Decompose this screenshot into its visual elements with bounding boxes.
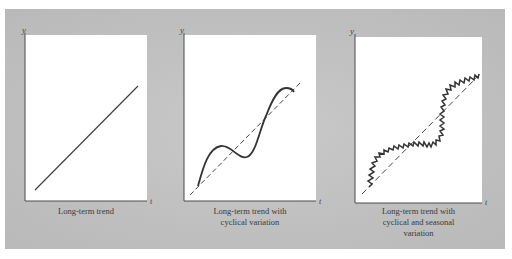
panel-trend-with-cyclical: y t	[179, 25, 322, 206]
x-axis-label: t	[150, 197, 153, 206]
caption-trend-with-cyclical-seasonal: Long-term trend with cyclical and season…	[355, 206, 482, 239]
caption-line: cyclical and seasonal	[355, 217, 482, 228]
caption-long-term-trend: Long-term trend	[25, 206, 147, 217]
plot-area	[25, 35, 147, 201]
caption-line: Long-term trend with	[355, 206, 482, 217]
panel-trend-with-cyclical-seasonal: y t	[349, 26, 488, 207]
caption-line: cyclical variation	[184, 217, 316, 228]
caption-line: Long-term trend with	[184, 206, 316, 217]
x-axis-label: t	[319, 197, 322, 206]
plot-area	[184, 35, 316, 201]
caption-line: Long-term trend	[25, 206, 147, 217]
caption-line: variation	[355, 228, 482, 239]
x-axis-label: t	[485, 198, 488, 207]
y-axis-label: y	[179, 25, 184, 35]
caption-trend-with-cyclical: Long-term trend with cyclical variation	[184, 206, 316, 228]
panel-long-term-trend: y t	[21, 25, 153, 206]
y-axis-label: y	[349, 26, 354, 36]
y-axis-label: y	[21, 25, 26, 35]
